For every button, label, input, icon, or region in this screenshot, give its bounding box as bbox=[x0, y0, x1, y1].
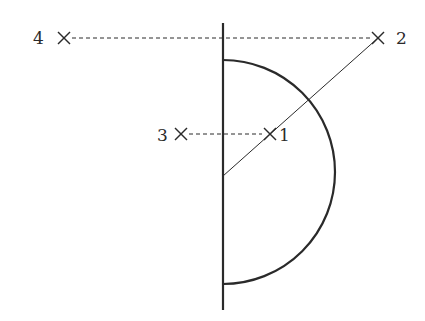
point-4-cross-icon bbox=[58, 32, 70, 44]
point-2-label: 2 bbox=[396, 28, 407, 48]
point-1-label: 1 bbox=[279, 125, 290, 145]
point-1-cross-icon bbox=[264, 128, 276, 140]
point-3-label: 3 bbox=[157, 125, 168, 145]
diagram: 1 2 3 4 bbox=[0, 0, 425, 321]
diagonal-line bbox=[223, 38, 378, 176]
point-4-label: 4 bbox=[33, 28, 44, 48]
point-3-cross-icon bbox=[175, 128, 187, 140]
point-2-cross-icon bbox=[372, 32, 384, 44]
semicircle-arc bbox=[223, 60, 335, 284]
